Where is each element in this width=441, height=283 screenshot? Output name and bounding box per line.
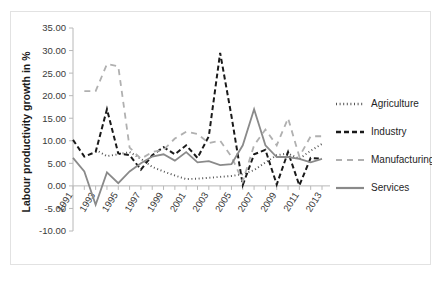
y-tick-label: 30.00 — [42, 45, 66, 56]
y-tick-label: 5.00 — [48, 158, 67, 169]
y-tick-label: 20.00 — [42, 90, 66, 101]
x-tick-label: 1995 — [99, 190, 120, 214]
line-chart: Labour productivity growth in % 35.0030.… — [11, 12, 432, 266]
y-tick-label: -10.00 — [39, 225, 66, 236]
series-line-manufacturing — [84, 64, 322, 181]
chart-frame: Labour productivity growth in % 35.0030.… — [10, 11, 431, 265]
x-tick-label: 1997 — [122, 190, 143, 214]
x-tick-label: 2001 — [167, 190, 188, 214]
legend-label-manufacturing: Manufacturing — [371, 154, 432, 165]
x-tick-label: 2013 — [303, 190, 324, 214]
x-tick-label: 1999 — [145, 190, 166, 214]
x-tick-label: 2007 — [235, 190, 256, 214]
y-tick-label: 15.00 — [42, 113, 66, 124]
x-tick-label: 2009 — [258, 190, 279, 214]
x-tick-label: 2003 — [190, 190, 211, 214]
y-tick-label: 10.00 — [42, 135, 66, 146]
legend-label-agriculture: Agriculture — [371, 98, 419, 109]
y-axis-title-label: Labour productivity growth in % — [20, 51, 32, 213]
y-tick-label: 35.00 — [42, 22, 66, 33]
x-tick-label: 2011 — [281, 190, 301, 213]
legend-label-services: Services — [371, 182, 409, 193]
x-tick-label: 1991 — [54, 190, 75, 214]
chart-legend: AgricultureIndustryManufacturingServices — [336, 98, 432, 193]
y-tick-label: 25.00 — [42, 68, 66, 79]
legend-label-industry: Industry — [371, 126, 407, 137]
series-lines — [73, 53, 322, 205]
x-tick-label: 2005 — [213, 190, 234, 214]
y-tick-label: 0.00 — [48, 180, 67, 191]
y-axis-title: Labour productivity growth in % — [20, 51, 32, 213]
series-line-industry — [73, 53, 322, 186]
